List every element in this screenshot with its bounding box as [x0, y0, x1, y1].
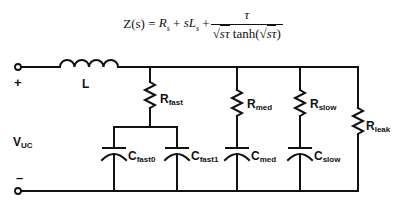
capacitor-slow-label: Cslow	[314, 149, 341, 164]
capacitor-fast0-label: Cfast0	[128, 149, 156, 164]
resistor-slow	[295, 90, 305, 116]
resistor-fast	[145, 82, 155, 108]
capacitor-med-label: Cmed	[251, 149, 276, 164]
resistor-med-label: Rmed	[247, 97, 272, 112]
resistor-slow-label: Rslow	[310, 97, 337, 112]
terminal-plus-label: +	[14, 75, 22, 90]
terminal-minus-label: –	[16, 170, 23, 185]
inductor-label: L	[82, 77, 89, 91]
circuit-diagram: + – VUC L Rfast Rmed Rslow Rleak Cfast0 …	[0, 0, 404, 209]
voltage-label: VUC	[13, 135, 33, 150]
capacitor-fast1-label: Cfast1	[191, 149, 219, 164]
resistor-fast-label: Rfast	[160, 92, 183, 107]
resistor-leak-label: Rleak	[366, 119, 391, 134]
inductor-coil	[60, 60, 118, 67]
resistor-leak	[353, 108, 363, 134]
resistor-med	[232, 90, 242, 116]
